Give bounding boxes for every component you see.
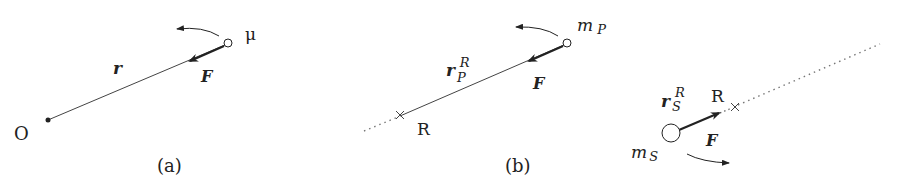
dotted-extension	[364, 117, 398, 131]
rotation-arrow	[516, 27, 558, 36]
dotted-extension	[738, 44, 880, 105]
force-arrow	[529, 46, 563, 61]
panel-caption: (a)	[157, 155, 182, 176]
star-body	[662, 124, 680, 142]
rotation-arrow	[177, 28, 219, 36]
force-label: F	[532, 74, 546, 93]
force-arrow	[190, 46, 224, 61]
reference-label: R	[711, 86, 725, 106]
panel-b: mP rPR F R (b)	[364, 15, 606, 176]
two-body-diagram: μ r F O (a) mP rPR F R (b) rSR R F mS	[0, 0, 898, 194]
panel-a: μ r F O (a)	[14, 24, 256, 176]
vector-label: rPR	[446, 55, 470, 85]
rotation-arrow	[687, 154, 729, 163]
force-arrow	[679, 113, 719, 130]
mass-label: mP	[577, 15, 606, 37]
mass-label: mS	[631, 142, 658, 164]
diagram-canvas: μ r F O (a) mP rPR F R (b) rSR R F mS	[0, 0, 898, 194]
force-label: F	[200, 67, 214, 86]
reduced-mass-body	[224, 39, 232, 47]
vector-label: r	[113, 58, 123, 78]
planet-body	[563, 39, 571, 47]
mass-label: μ	[245, 24, 256, 44]
panel-caption: (b)	[505, 155, 531, 176]
origin-label: O	[14, 123, 29, 144]
force-label: F	[705, 131, 719, 150]
panel-c: rSR R F mS	[631, 44, 880, 164]
reference-label: R	[417, 119, 431, 139]
reference-cross	[731, 103, 739, 111]
vector-label: rSR	[661, 85, 685, 114]
origin-point	[46, 118, 51, 123]
dotted-inner	[720, 108, 732, 113]
